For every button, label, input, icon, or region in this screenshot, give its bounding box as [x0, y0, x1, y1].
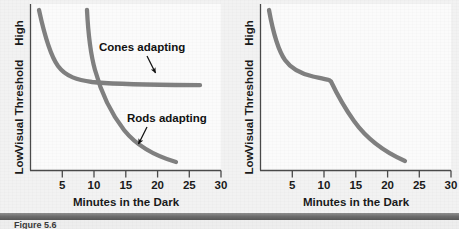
- y-axis-high-label: High: [243, 20, 255, 46]
- y-axis-high-label: High: [13, 20, 25, 46]
- x-tick-label-15: 15: [119, 179, 132, 191]
- y-axis-title: Visual Threshold: [13, 60, 25, 152]
- x-tick-label-20: 20: [151, 179, 164, 191]
- y-axis-low-label: Low: [243, 151, 255, 174]
- x-tick-label-10: 10: [88, 179, 101, 191]
- left-chart-panel: 5 10 15 20 25 30 Minutes in the Dark Hig…: [0, 0, 229, 213]
- x-tick-label-30: 30: [445, 179, 458, 191]
- y-axis-low-label: Low: [13, 151, 25, 174]
- y-axis-title: Visual Threshold: [243, 60, 255, 152]
- x-tick-label-5: 5: [59, 179, 66, 191]
- x-axis-ticks: [292, 171, 451, 178]
- figure-caption-label: Figure 5.6: [14, 220, 57, 229]
- x-tick-label-20: 20: [381, 179, 394, 191]
- x-tick-label-5: 5: [289, 179, 296, 191]
- x-tick-label-25: 25: [183, 179, 196, 191]
- left-chart-svg: 5 10 15 20 25 30 Minutes in the Dark Hig…: [0, 0, 229, 213]
- right-chart-panel: 5 10 15 20 25 30 Minutes in the Dark Hig…: [230, 0, 459, 213]
- x-tick-label-10: 10: [318, 179, 331, 191]
- caption-strip: Figure 5.6: [0, 220, 459, 229]
- x-axis-tick-labels: 5 10 15 20 25 30: [289, 179, 457, 191]
- right-chart-svg: 5 10 15 20 25 30 Minutes in the Dark Hig…: [230, 0, 459, 213]
- caption-divider-bar: [0, 213, 459, 220]
- cones-adapting-label: Cones adapting: [99, 41, 185, 53]
- figure-container: 5 10 15 20 25 30 Minutes in the Dark Hig…: [0, 0, 459, 229]
- chart-panels: 5 10 15 20 25 30 Minutes in the Dark Hig…: [0, 0, 459, 213]
- x-axis-title: Minutes in the Dark: [73, 196, 180, 208]
- x-axis-tick-labels: 5 10 15 20 25 30: [59, 179, 227, 191]
- x-tick-label-30: 30: [215, 179, 228, 191]
- x-axis-ticks: [62, 171, 221, 178]
- x-tick-label-25: 25: [413, 179, 426, 191]
- x-tick-label-15: 15: [349, 179, 362, 191]
- plot-area-background: [260, 4, 451, 170]
- rods-adapting-label: Rods adapting: [127, 112, 207, 124]
- x-axis-title: Minutes in the Dark: [303, 196, 410, 208]
